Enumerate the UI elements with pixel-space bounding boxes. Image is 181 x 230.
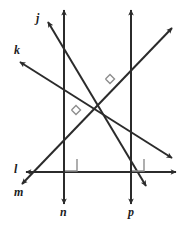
right-angle-mark-n-l xyxy=(65,159,77,171)
line-label-l: l xyxy=(14,163,17,175)
line-m xyxy=(22,28,172,184)
line-label-k: k xyxy=(14,44,20,56)
line-label-p: p xyxy=(128,206,134,218)
line-label-j: j xyxy=(36,12,39,24)
right-angle-marks-group xyxy=(65,75,144,172)
right-angle-mark-j-m xyxy=(106,75,115,84)
line-label-n: n xyxy=(60,206,67,218)
right-angle-mark-k-m xyxy=(72,106,81,115)
geometry-diagram: j k l m n p xyxy=(0,0,181,230)
line-k xyxy=(20,62,172,158)
lines-group xyxy=(20,10,176,204)
geometry-canvas xyxy=(0,0,181,230)
line-label-m: m xyxy=(14,186,23,198)
